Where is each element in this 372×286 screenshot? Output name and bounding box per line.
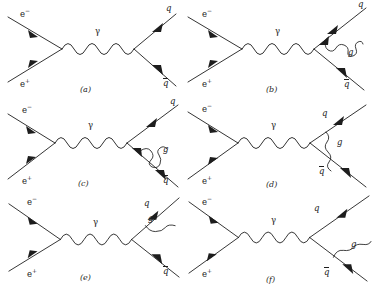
label-electron-a: e− [20, 8, 30, 18]
diagram-panel-e: e− e+ γ q q g (e) [0, 190, 186, 285]
label-photon-d: γ [271, 121, 276, 130]
label-electron-d: e− [202, 103, 212, 113]
arrowheads-d [208, 116, 351, 178]
panel-tag-b: (b) [266, 85, 277, 94]
arrow-quark-d [333, 116, 344, 125]
label-photon-b: γ [275, 27, 280, 36]
label-quark-e: q [144, 199, 149, 208]
antiquark-line-e [132, 239, 180, 277]
label-gluon-d: g [337, 138, 342, 147]
label-electron-f: e− [202, 196, 212, 206]
label-antiquark-d: q [319, 167, 324, 176]
label-antiquark-e: q [163, 267, 168, 276]
label-positron-d: e+ [202, 175, 212, 185]
label-electron-c: e− [22, 104, 32, 114]
positron-line-b [188, 49, 242, 82]
label-antiquark-c: q [163, 176, 168, 185]
arrow-electron-f [209, 216, 219, 224]
arrow-quark-outer-b [327, 25, 338, 34]
label-quark-b: q [358, 0, 363, 9]
panel-tag-a: (a) [80, 85, 91, 94]
arrow-quark-a [152, 23, 163, 32]
label-gluon-b: g [348, 48, 353, 57]
electron-line-b [188, 17, 242, 49]
label-positron-f: e+ [202, 268, 212, 278]
label-positron-c: e+ [22, 175, 32, 185]
label-quark-c: q [170, 97, 175, 106]
label-positron-b: e+ [202, 78, 212, 88]
diagram-panel-d: e− e+ γ q q g (d) [186, 95, 372, 190]
positron-line-a [8, 49, 62, 82]
figure-sheet: e− e+ γ q q (a) e− [0, 0, 372, 286]
label-quark-d: q [322, 109, 327, 118]
label-gluon-f: g [351, 240, 356, 249]
arrowheads-f [207, 209, 353, 274]
electron-line-d [188, 112, 238, 143]
arrow-antiquark-inner-c [132, 148, 142, 157]
gluon-exchange-d [325, 132, 331, 171]
label-antiquark-a: q [163, 79, 168, 88]
label-antiquark-b: q [344, 80, 349, 89]
panel-tag-e: (e) [80, 273, 91, 282]
label-quark-a: q [166, 4, 171, 13]
panel-tag-d: (d) [266, 180, 277, 189]
arrow-antiquark-d [340, 168, 351, 178]
electron-line-a [8, 17, 62, 49]
photon-propagator-d [238, 138, 310, 149]
label-photon-e: γ [93, 218, 98, 227]
photon-propagator-b [242, 44, 314, 55]
label-photon-c: γ [88, 121, 93, 130]
label-photon-a: γ [95, 27, 100, 36]
arrow-antiquark-f [342, 264, 353, 274]
diagram-panel-b: e− e+ γ q q g (b) [186, 0, 372, 95]
arrow-quark-inner-b [319, 36, 329, 45]
arrow-electron-e [28, 217, 38, 225]
label-positron-e: e+ [27, 268, 37, 278]
diagram-f-canvas [186, 190, 372, 285]
photon-propagator-e [60, 234, 131, 245]
arrow-quark-c [146, 118, 157, 127]
label-electron-b: e− [202, 8, 212, 18]
arrow-positron-f [207, 253, 217, 261]
gluon-loop-b [325, 39, 363, 56]
diagram-panel-a: e− e+ γ q q (a) [0, 0, 186, 95]
photon-propagator-c [55, 138, 127, 149]
panel-tag-f: (f) [266, 275, 275, 284]
photon-propagator-a [62, 44, 134, 55]
label-electron-e: e− [27, 196, 37, 206]
gluon-radiation-e [145, 225, 175, 232]
label-antiquark-f: q [324, 268, 329, 277]
label-quark-f: q [314, 204, 319, 213]
arrow-electron-d [208, 125, 218, 133]
diagram-panel-c: e− e+ γ q q g (c) [0, 95, 186, 190]
arrow-positron-d [208, 157, 218, 165]
photon-propagator-f [238, 232, 309, 243]
arrow-antiquark-b [336, 68, 347, 78]
arrow-positron-c [26, 156, 36, 164]
electron-line-c [8, 114, 55, 143]
label-positron-a: e+ [20, 78, 30, 88]
diagram-d-canvas [186, 95, 372, 190]
panel-tag-c: (c) [78, 179, 89, 188]
label-gluon-c: g [163, 145, 168, 154]
label-gluon-e: g [148, 214, 153, 223]
arrow-quark-f [336, 209, 347, 218]
label-photon-f: γ [271, 216, 276, 225]
diagram-panel-f: e− e+ γ q q g (f) [186, 190, 372, 285]
